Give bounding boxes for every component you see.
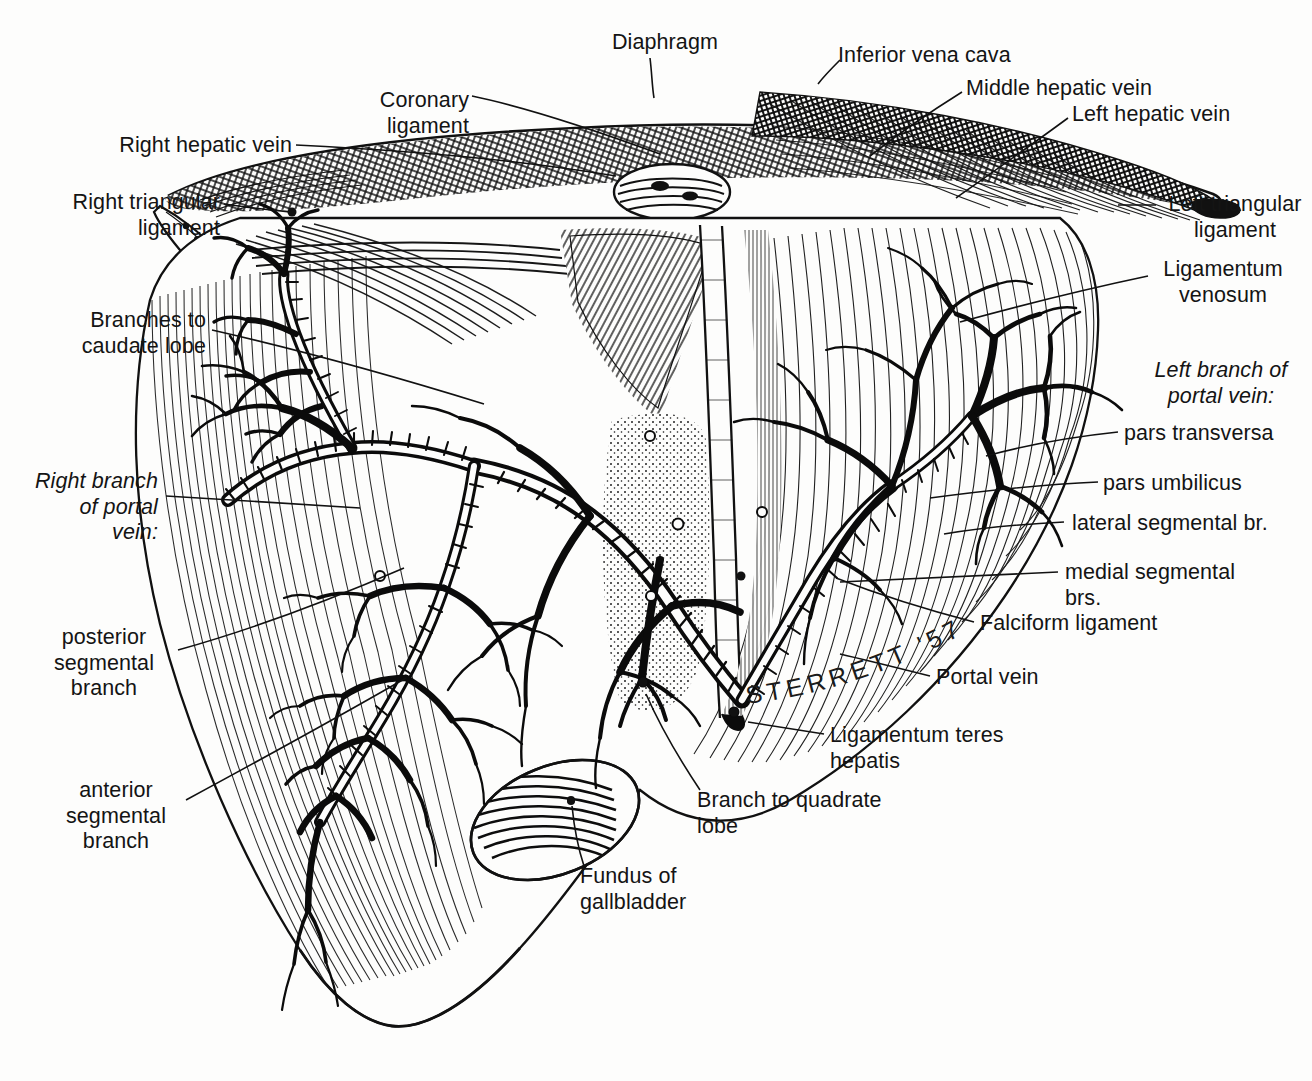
label-inferior-vena-cava: Inferior vena cava <box>838 43 1018 69</box>
label-portal-vein: Portal vein <box>936 665 1046 691</box>
label-posterior-segmental-branch: posterior segmental branch <box>38 625 170 702</box>
label-left-triangular-ligament: Left triangular ligament <box>1160 192 1310 243</box>
label-right-hepatic-vein: Right hepatic vein <box>112 133 292 159</box>
label-falciform-ligament: Falciform ligament <box>980 611 1160 637</box>
label-fundus-of-gallbladder: Fundus of gallbladder <box>580 864 788 915</box>
label-branches-to-caudate-lobe: Branches to caudate lobe <box>44 308 206 359</box>
label-anterior-segmental-branch: anterior segmental branch <box>52 778 180 855</box>
liver-anatomical-illustration: STERRETT '57 <box>0 0 1312 1081</box>
label-pars-transversa: pars transversa <box>1124 421 1274 447</box>
label-middle-hepatic-vein: Middle hepatic vein <box>966 76 1156 102</box>
label-pars-umbilicus: pars umbilicus <box>1103 471 1251 497</box>
label-ligamentum-venosum: Ligamentum venosum <box>1153 257 1293 308</box>
label-lateral-segmental-br: lateral segmental br. <box>1072 511 1272 537</box>
label-medial-segmental-brs: medial segmental brs. <box>1065 560 1277 611</box>
label-right-branch-portal-vein: Right branch of portal vein: <box>28 469 158 546</box>
label-left-hepatic-vein: Left hepatic vein <box>1072 102 1238 128</box>
label-ligamentum-teres-hepatis: Ligamentum teres hepatis <box>830 723 1066 774</box>
figure-page: THE LIVER 47 <box>0 0 1312 1081</box>
label-branch-to-quadrate-lobe: Branch to quadrate lobe <box>697 788 925 839</box>
label-coronary-ligament: Coronary ligament <box>297 88 469 139</box>
inferior-vena-cava-orifice <box>614 164 730 220</box>
label-left-branch-portal-vein: Left branch of portal vein: <box>1143 358 1299 409</box>
label-right-triangular-ligament: Right triangular ligament <box>52 190 220 241</box>
label-diaphragm: Diaphragm <box>606 30 718 56</box>
